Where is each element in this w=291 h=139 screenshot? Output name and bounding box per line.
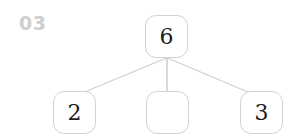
middle-child-number-box[interactable] bbox=[146, 91, 189, 134]
root-number-box[interactable]: 6 bbox=[145, 15, 188, 58]
left-child-number-value: 2 bbox=[68, 102, 82, 124]
connector-line-left bbox=[82, 58, 167, 93]
left-child-number-box[interactable]: 2 bbox=[53, 91, 96, 134]
number-bond-worksheet: 03 6 2 3 bbox=[0, 0, 291, 139]
right-child-number-value: 3 bbox=[255, 102, 269, 124]
connector-line-right bbox=[168, 58, 249, 92]
right-child-number-box[interactable]: 3 bbox=[240, 91, 283, 134]
root-number-value: 6 bbox=[160, 26, 174, 48]
